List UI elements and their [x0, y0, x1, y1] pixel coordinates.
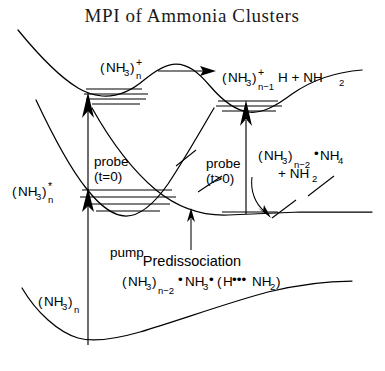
pf-nh2: NH [252, 274, 272, 289]
probe-tgt0-label: probe (t>0) [206, 156, 241, 186]
dp-three: 3 [282, 155, 287, 166]
ion-reactant-n: n [136, 70, 141, 81]
figure-container: MPI of Ammonia Clusters [0, 0, 385, 371]
dp-four: 4 [338, 155, 343, 166]
excited-three: 3 [36, 191, 41, 202]
probe-tgt0-arrow [240, 100, 252, 214]
pf-two: 2 [270, 281, 275, 292]
ground-three: 3 [62, 301, 67, 312]
figure-title: MPI of Ammonia Clusters [85, 5, 300, 26]
ion-reactant-plus: + [136, 56, 142, 68]
pf-paren-open: ( [122, 274, 127, 289]
pf-three: 3 [146, 281, 151, 292]
dp-paren-open: ( [258, 148, 263, 163]
pump-arrow [82, 188, 94, 345]
ground-paren-close: ) [68, 294, 73, 309]
ion-product-plus-sup: + [258, 66, 264, 78]
ion-product-two: 2 [339, 77, 344, 88]
excited-nh: NH [18, 184, 38, 199]
dp-nh4: NH [320, 148, 340, 163]
predissociation-pointer-arrow [187, 208, 195, 250]
probe-tgt0-line2: (t>0) [206, 171, 234, 186]
dp-plus-nh: + NH [278, 166, 309, 181]
ion-reactant-paren-open: ( [100, 60, 105, 75]
excited-asterisk: * [48, 180, 52, 192]
pf-three-2: 3 [203, 281, 208, 292]
pf-paren-close: ) [152, 274, 157, 289]
excited-paren-open: ( [12, 184, 17, 199]
ion-well-2-vibrational-levels [216, 101, 282, 111]
excited-paren-close: ) [42, 184, 47, 199]
probe-t0-line2: (t=0) [94, 169, 122, 184]
ion-reactant-label: ( NH 3 ) n + [100, 56, 142, 81]
probe-t0-label: probe (t=0) [94, 154, 129, 184]
ion-product-nh: NH [228, 70, 248, 85]
ion-product-label: ( NH 3 ) n−1 + H + NH 2 [222, 66, 344, 92]
dp-paren-close: ) [288, 148, 293, 163]
ion-product-h-plus-nh: H + NH [278, 70, 323, 85]
product-leader-line [272, 200, 296, 218]
pf-dot1: • [178, 272, 183, 287]
pump-label: pump [110, 245, 144, 260]
ion-reactant-nh: NH [106, 60, 126, 75]
ion-product-n-minus-1: n−1 [258, 81, 274, 92]
ion-product-paren-open: ( [222, 70, 227, 85]
excited-state-label: ( NH 3 ) n * [12, 180, 53, 205]
dp-two: 2 [312, 173, 317, 184]
pf-paren-close-2: ) [276, 274, 281, 289]
predissociation-formula: ( NH 3 ) n−2 • NH 3 • ( H ••• NH 2 ) [122, 272, 281, 296]
pf-dots: ••• [232, 272, 246, 287]
ground-state-curve [22, 281, 352, 340]
pf-n-minus-2: n−2 [158, 285, 174, 296]
dp-nh: NH [264, 148, 284, 163]
ion-product-three: 3 [246, 77, 251, 88]
ground-nh: NH [44, 294, 64, 309]
crossing-leader-line [176, 150, 196, 166]
pf-nh3: NH [185, 274, 205, 289]
pf-paren-open-2: ( [217, 274, 222, 289]
ion-reactant-three: 3 [124, 67, 129, 78]
excited-n: n [48, 194, 53, 205]
ground-n: n [74, 304, 79, 315]
probe-t0-line1: probe [94, 154, 129, 169]
pf-dot2: • [209, 272, 214, 287]
pf-nh: NH [128, 274, 148, 289]
ion-product-paren-close: ) [252, 70, 257, 85]
dp-dot: • [314, 146, 319, 161]
ground-state-label: ( NH 3 ) n [38, 294, 79, 315]
reaction-arrow [158, 66, 216, 76]
probe-tgt0-line1: probe [206, 156, 241, 171]
ion-well-1-vibrational-levels [84, 89, 148, 104]
predissociation-label: Predissociation [143, 253, 241, 269]
ion-reactant-paren-close: ) [130, 60, 135, 75]
ground-paren-open: ( [38, 294, 43, 309]
potential-energy-diagram: MPI of Ammonia Clusters [0, 0, 385, 371]
